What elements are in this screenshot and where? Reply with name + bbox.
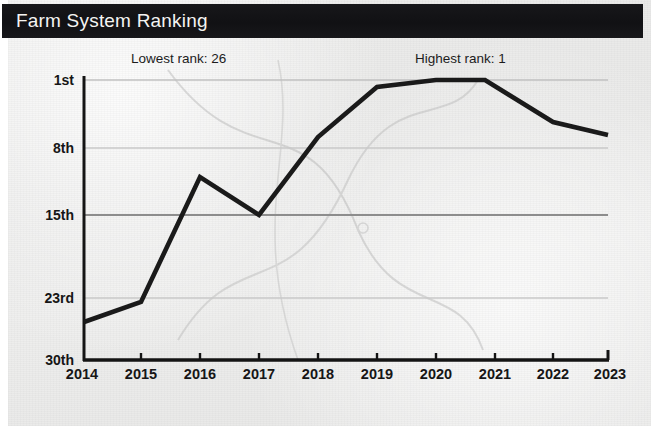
chart-figure: Farm System Ranking 1st 8th 15th 23rd 30…	[0, 0, 651, 426]
chart-plot-area	[0, 0, 651, 426]
data-line-farm-system-rank	[84, 80, 608, 322]
axis-lines	[83, 76, 609, 361]
